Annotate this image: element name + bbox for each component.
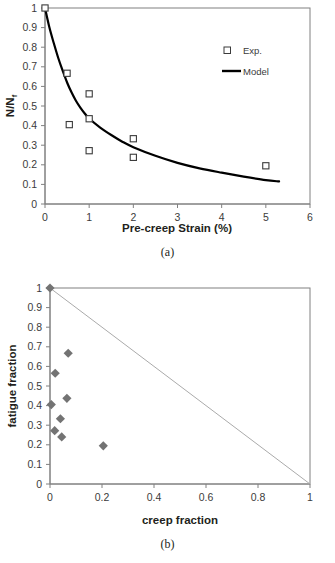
y-tick-label: 0.1 bbox=[22, 178, 37, 190]
y-tick-label: 0.3 bbox=[22, 139, 37, 151]
chart-a-x-axis: 0123456 bbox=[42, 204, 313, 223]
chart-a-x-axis-title: Pre-creep Strain (%) bbox=[122, 222, 232, 234]
y-tick-label: 0.7 bbox=[22, 60, 37, 72]
panel-a-caption: (a) bbox=[0, 245, 335, 260]
chart-a-plot-frame bbox=[45, 8, 310, 204]
chart-a-y-axis-title-main: N/N bbox=[4, 97, 16, 117]
y-tick-label: 0.4 bbox=[22, 119, 37, 131]
x-tick-label: 1 bbox=[86, 211, 92, 223]
y-tick-label: 0.2 bbox=[22, 158, 37, 170]
x-tick-label: 0 bbox=[47, 491, 53, 503]
legend-label-model: Model bbox=[243, 66, 269, 77]
y-tick-label: 1 bbox=[36, 282, 42, 294]
y-tick-label: 0.9 bbox=[22, 21, 37, 33]
chart-b-x-axis: 00.20.40.60.81 bbox=[47, 484, 313, 503]
y-tick-label: 1 bbox=[31, 2, 37, 14]
data-point-exp bbox=[263, 163, 269, 169]
data-point-exp bbox=[86, 91, 92, 97]
chart-a-svg: 00.10.20.30.40.50.60.70.80.91 0123456 Ex… bbox=[0, 0, 335, 240]
y-tick-label: 0.9 bbox=[27, 301, 42, 313]
y-tick-label: 0.1 bbox=[27, 458, 42, 470]
chart-b-svg: 00.10.20.30.40.50.60.70.80.91 00.20.40.6… bbox=[0, 272, 335, 534]
y-tick-label: 0 bbox=[31, 198, 37, 210]
chart-b-y-axis-title: fatigue fraction bbox=[6, 344, 18, 427]
y-tick-label: 0.5 bbox=[22, 100, 37, 112]
y-tick-label: 0 bbox=[36, 478, 42, 490]
y-tick-label: 0.7 bbox=[27, 340, 42, 352]
x-tick-label: 0.2 bbox=[95, 491, 110, 503]
y-tick-label: 0.3 bbox=[27, 419, 42, 431]
x-tick-label: 0.4 bbox=[147, 491, 162, 503]
x-tick-label: 0 bbox=[42, 211, 48, 223]
data-point-exp bbox=[130, 154, 136, 160]
chart-a-y-axis: 00.10.20.30.40.50.60.70.80.91 bbox=[22, 2, 45, 210]
chart-b-y-axis: 00.10.20.30.40.50.60.70.80.91 bbox=[27, 282, 50, 490]
x-tick-label: 0.8 bbox=[251, 491, 266, 503]
chart-a-y-axis-title: N/Nf bbox=[4, 94, 19, 117]
x-tick-label: 6 bbox=[307, 211, 313, 223]
x-tick-label: 5 bbox=[263, 211, 269, 223]
legend-marker-exp bbox=[224, 47, 231, 54]
y-tick-label: 0.2 bbox=[27, 438, 42, 450]
figure-container: 00.10.20.30.40.50.60.70.80.91 0123456 Ex… bbox=[0, 0, 335, 563]
y-tick-label: 0.4 bbox=[27, 399, 42, 411]
y-tick-label: 0.6 bbox=[27, 360, 42, 372]
y-tick-label: 0.8 bbox=[27, 321, 42, 333]
chart-panel-b: 00.10.20.30.40.50.60.70.80.91 00.20.40.6… bbox=[0, 272, 335, 534]
chart-panel-a: 00.10.20.30.40.50.60.70.80.91 0123456 Ex… bbox=[0, 0, 335, 240]
y-tick-label: 0.8 bbox=[22, 41, 37, 53]
x-tick-label: 0.6 bbox=[199, 491, 214, 503]
legend-label-exp: Exp. bbox=[243, 45, 262, 56]
data-point-exp bbox=[64, 70, 70, 76]
data-point-exp bbox=[130, 136, 136, 142]
data-point-exp bbox=[66, 122, 72, 128]
chart-b-x-axis-title: creep fraction bbox=[142, 514, 218, 526]
y-tick-label: 0.6 bbox=[22, 80, 37, 92]
y-tick-label: 0.5 bbox=[27, 380, 42, 392]
panel-b-caption: (b) bbox=[0, 537, 335, 552]
chart-a-y-axis-title-sub: f bbox=[10, 94, 19, 97]
data-point-exp bbox=[86, 148, 92, 154]
data-point-exp bbox=[42, 5, 48, 11]
data-point-exp bbox=[86, 116, 92, 122]
x-tick-label: 1 bbox=[307, 491, 313, 503]
